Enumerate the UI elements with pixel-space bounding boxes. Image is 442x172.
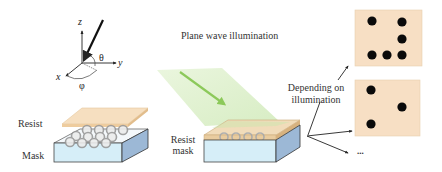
plane-wave-beam [157, 68, 280, 126]
z-axis-label: z [78, 16, 82, 27]
diagram-canvas [0, 0, 442, 172]
resist-layer [62, 108, 148, 127]
y-axis-label: y [118, 57, 122, 68]
depending-label-line1: Depending on [280, 82, 352, 93]
pattern-box-1 [355, 10, 422, 66]
pattern-box-2 [355, 80, 420, 136]
mask-label: Mask [22, 150, 44, 161]
resist-mask-block [204, 120, 300, 162]
branch-arrows [307, 66, 352, 153]
theta-label: θ [99, 52, 104, 63]
resist-mask-label-line2: mask [165, 145, 201, 156]
mask-block [54, 126, 148, 163]
resist-mask-label-line1: Resist [165, 134, 201, 145]
depending-label-line2: illumination [280, 94, 352, 105]
ellipsis-label: ... [357, 146, 364, 157]
coordinate-system-icon [66, 20, 116, 79]
x-axis-label: x [56, 71, 60, 82]
resist-label: Resist [18, 118, 42, 129]
illumination-label: Plane wave illumination [181, 30, 278, 41]
phi-label: φ [79, 80, 85, 91]
